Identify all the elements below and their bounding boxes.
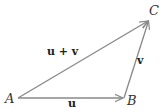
vector-v-label: v <box>136 54 144 67</box>
vector-u-label: u <box>68 97 76 109</box>
point-a-label: A <box>4 91 14 106</box>
vector-triangle-diagram: A B C u v u + v <box>0 0 165 109</box>
point-b-label: B <box>126 93 137 108</box>
point-c-label: C <box>149 3 159 18</box>
vector-u-plus-v <box>18 21 148 98</box>
vector-u-plus-v-label: u + v <box>47 45 79 58</box>
